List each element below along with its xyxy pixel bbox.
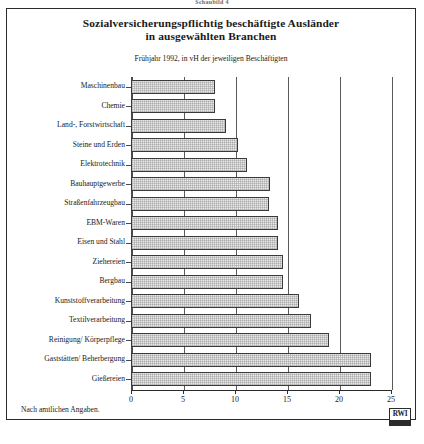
bar (131, 353, 371, 367)
bar-row: EBM-Waren (7, 214, 417, 234)
bar-category-label: Ziehereien (93, 257, 125, 266)
bar-category-label: Textilverarbeitung (69, 315, 125, 324)
x-tick-mark (339, 390, 340, 394)
chart-title: Sozialversicherungspflichtig beschäftigt… (7, 17, 415, 44)
bar (131, 372, 371, 386)
bar (131, 177, 270, 191)
bar-category-label: Gießereien (92, 374, 125, 383)
bar-row: Gießereien (7, 370, 417, 390)
x-tick-mark (287, 390, 288, 394)
chart-subtitle: Frühjahr 1992, in vH der jeweiligen Besc… (7, 54, 415, 64)
bar-category-label: Straßenfahrzeugbau (64, 198, 125, 207)
x-tick-mark (131, 390, 132, 394)
bar-row: Bauhauptgewerbe (7, 175, 417, 195)
bar (131, 197, 269, 211)
bar-category-label: Steine und Erden (73, 140, 125, 149)
bar-row: Straßenfahrzeugbau (7, 194, 417, 214)
chart-title-line1: Sozialversicherungspflichtig beschäftigt… (83, 17, 339, 29)
bar (131, 99, 215, 113)
x-tick-label: 25 (387, 395, 395, 404)
bar-row: Maschinenbau (7, 77, 417, 97)
bar-category-label: Gaststätten/ Beherbergung (44, 354, 125, 363)
bar-row: Gaststätten/ Beherbergung (7, 350, 417, 370)
bar-category-label: Land-, Forstwirtschaft (57, 120, 125, 129)
bar (131, 255, 283, 269)
bar-row: Steine und Erden (7, 136, 417, 156)
bar-category-label: Eisen und Stahl (77, 237, 125, 246)
x-tick-label: 10 (231, 395, 239, 404)
x-axis-line (131, 390, 392, 391)
bar-row: Elektrotechnik (7, 155, 417, 175)
bar-row: Land-, Forstwirtschaft (7, 116, 417, 136)
bar (131, 119, 226, 133)
x-tick-label: 5 (181, 395, 185, 404)
rwi-logo-text: RWI (393, 409, 408, 418)
bar (131, 216, 278, 230)
bar-category-label: Kunststoffverarbeitung (55, 296, 125, 305)
x-tick-label: 0 (129, 395, 133, 404)
bar (131, 236, 278, 250)
bar (131, 80, 215, 94)
bar-row: Textilverarbeitung (7, 311, 417, 331)
x-tick-mark (183, 390, 184, 394)
bar-row: Bergbau (7, 272, 417, 292)
footer-note: Nach amtlichen Angaben. (21, 405, 100, 414)
chart-title-line2: in ausgewählten Branchen (29, 30, 393, 43)
bar-category-label: Reinigung/ Körperpflege (49, 335, 125, 344)
bar-category-label: EBM-Waren (86, 218, 125, 227)
bar (131, 314, 311, 328)
bar-row: Eisen und Stahl (7, 233, 417, 253)
bar (131, 294, 299, 308)
x-tick-label: 15 (283, 395, 291, 404)
plot-wrap: MaschinenbauChemieLand-, Forstwirtschaft… (7, 71, 417, 401)
bar-category-label: Bauhauptgewerbe (70, 179, 125, 188)
x-tick-mark (235, 390, 236, 394)
x-tick-label: 20 (335, 395, 343, 404)
bar-row: Chemie (7, 97, 417, 117)
bar-row: Kunststoffverarbeitung (7, 292, 417, 312)
bar-category-label: Elektrotechnik (80, 159, 125, 168)
bar-row: Ziehereien (7, 253, 417, 273)
bar-category-label: Bergbau (99, 276, 125, 285)
figure-caption-top: Schaubild 4 (0, 0, 424, 5)
bar-row: Reinigung/ Körperpflege (7, 331, 417, 351)
bar (131, 275, 283, 289)
bar (131, 158, 247, 172)
bar-category-label: Chemie (101, 101, 125, 110)
x-tick-mark (391, 390, 392, 394)
rwi-logo: RWI (389, 408, 411, 426)
bar (131, 333, 329, 347)
figure-frame: Sozialversicherungspflichtig beschäftigt… (6, 8, 416, 420)
bar (131, 138, 238, 152)
rwi-logo-bar (390, 420, 410, 426)
bar-category-label: Maschinenbau (81, 81, 125, 90)
